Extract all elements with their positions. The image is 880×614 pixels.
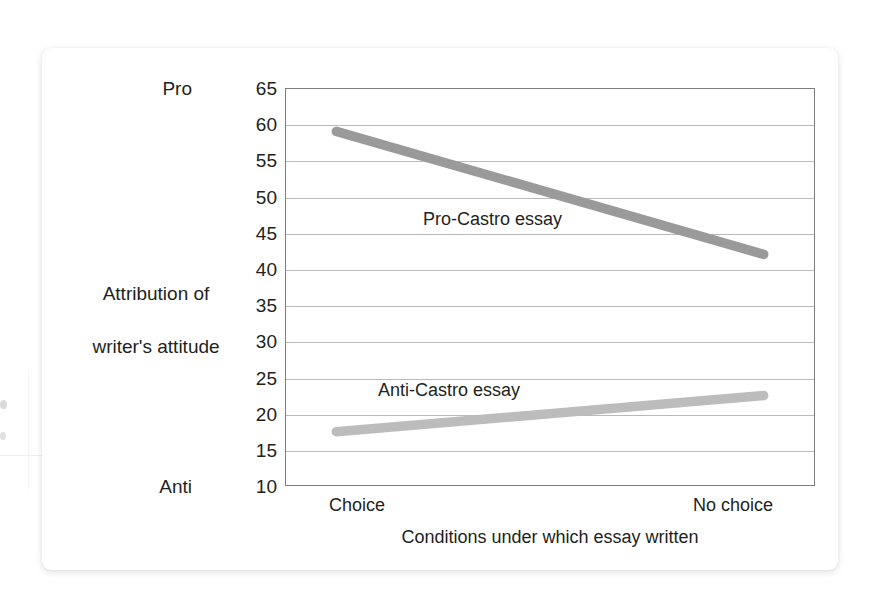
- line-chart: Pro Anti Attribution of writer's attitud…: [0, 0, 880, 614]
- y-axis-tick-label: 10: [200, 477, 277, 496]
- y-axis-tick-label: 15: [200, 440, 277, 459]
- series-label-anti-castro: Anti-Castro essay: [378, 381, 520, 399]
- y-axis-pole-high-label: Pro: [120, 79, 192, 98]
- y-axis-tick-label: 35: [200, 296, 277, 315]
- y-axis-tick-label: 60: [200, 115, 277, 134]
- y-axis-tick-label: 65: [200, 79, 277, 98]
- x-axis-title: Conditions under which essay written: [285, 528, 815, 546]
- y-axis-tick-label: 40: [200, 259, 277, 278]
- y-axis-tick-label: 50: [200, 187, 277, 206]
- y-axis-tick-label: 30: [200, 332, 277, 351]
- series-line-anti-castro-essay: [336, 396, 763, 432]
- y-axis-tick-label: 45: [200, 223, 277, 242]
- series-label-pro-castro: Pro-Castro essay: [423, 210, 562, 228]
- series-layer: [285, 88, 815, 486]
- y-axis-tick-label: 25: [200, 368, 277, 387]
- y-axis-tick-labels: 656055504540353025201510: [200, 88, 277, 486]
- figure-root: Pro Anti Attribution of writer's attitud…: [0, 0, 880, 614]
- x-axis-tick-no-choice: No choice: [693, 496, 773, 514]
- y-axis-tick-label: 20: [200, 404, 277, 423]
- x-axis-tick-choice: Choice: [329, 496, 385, 514]
- y-axis-tick-label: 55: [200, 151, 277, 170]
- series-line-pro-castro-essay: [336, 131, 763, 254]
- y-axis-pole-low-label: Anti: [120, 477, 192, 496]
